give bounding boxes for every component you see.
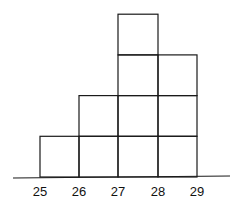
histogram-box xyxy=(118,55,158,96)
x-tick-label: 25 xyxy=(33,184,47,199)
x-tick-label: 27 xyxy=(111,184,125,199)
histogram-box xyxy=(118,136,158,177)
histogram-box xyxy=(118,96,158,137)
histogram-box xyxy=(79,136,118,177)
histogram-boxes xyxy=(40,14,197,177)
histogram-chart: 2526272829 xyxy=(0,0,240,207)
histogram-box xyxy=(158,96,197,137)
histogram-box xyxy=(40,136,79,177)
x-tick-label: 29 xyxy=(190,184,204,199)
histogram-box xyxy=(158,55,197,96)
x-axis-tick-labels: 2526272829 xyxy=(33,184,204,199)
histogram-box xyxy=(118,14,158,55)
histogram-box xyxy=(79,96,118,137)
histogram-box xyxy=(158,136,197,177)
x-tick-label: 26 xyxy=(72,184,86,199)
x-tick-label: 28 xyxy=(151,184,165,199)
